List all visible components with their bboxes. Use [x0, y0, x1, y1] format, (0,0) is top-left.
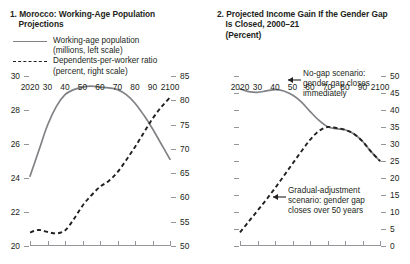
x-tick-label: 60 — [95, 82, 104, 92]
solid-line-key-icon — [13, 41, 47, 42]
left-y-tick — [234, 127, 239, 128]
left-y-tick — [234, 144, 239, 145]
left-y-tick — [24, 178, 29, 179]
right-y-tick — [381, 161, 386, 162]
no-gap-scenario-curve — [240, 89, 380, 161]
left-y-tick — [234, 76, 239, 77]
right-y-tick-label: 65 — [177, 168, 189, 178]
panel-2-title-line1: Projected Income Gain If the Gender Gap — [226, 9, 387, 19]
panel-2-units: (Percent) — [217, 30, 409, 40]
x-tick-label: 80 — [130, 82, 139, 92]
legend-label-dependents-ratio: Dependents-per-worker ratio — [53, 56, 157, 65]
x-tick — [240, 241, 241, 246]
no-gap-annotation-line2: gender gap closes — [303, 79, 370, 89]
x-tick-label: 2100 — [161, 82, 180, 92]
no-gap-annotation-line1: No-gap scenario: — [303, 69, 370, 79]
left-y-tick — [234, 246, 239, 247]
left-y-tick-label: 30 — [11, 71, 23, 81]
panel-2-title-line2: Is Closed, 2000–21 — [217, 19, 409, 29]
right-y-tick — [171, 100, 176, 101]
legend-item-dependents-ratio: Dependents-per-worker ratio — [53, 56, 157, 66]
right-y-tick — [171, 246, 176, 247]
x-tick — [118, 241, 119, 246]
x-tick-label: 2020 — [21, 82, 40, 92]
right-y-tick-label: 70 — [177, 144, 189, 154]
left-y-tick — [24, 76, 29, 77]
left-y-tick — [234, 195, 239, 196]
panel-1-legend: Working-age population (millions, left s… — [53, 36, 157, 77]
x-tick-label: 50 — [78, 82, 87, 92]
legend-item-working-age-population: Working-age population — [53, 36, 157, 46]
left-y-tick — [24, 110, 29, 111]
x-tick-label: 90 — [148, 82, 157, 92]
right-y-tick-label: 40 — [387, 105, 399, 115]
panel-2-plot-area: 2020304050607080902100051015202530354045… — [240, 76, 380, 246]
right-y-tick-label: 50 — [387, 71, 399, 81]
left-y-tick-label: 22 — [11, 207, 23, 217]
right-y-tick-label: 75 — [177, 120, 189, 130]
left-y-tick — [234, 110, 239, 111]
x-tick — [135, 241, 136, 246]
right-y-tick — [381, 93, 386, 94]
panel-1-title-line1: Morocco: Working-Age Population — [19, 9, 155, 19]
right-y-tick-label: 55 — [177, 217, 189, 227]
x-tick — [363, 241, 364, 246]
right-y-tick-label: 45 — [387, 88, 399, 98]
left-y-tick — [24, 212, 29, 213]
panel-1-title-line2: Projections — [10, 19, 200, 29]
right-y-tick-label: 60 — [177, 192, 189, 202]
x-tick — [310, 241, 311, 246]
legend-sublabel-working-age-population: (millions, left scale) — [53, 46, 157, 56]
chart-panel-1: 1. Morocco: Working-Age Population Proje… — [0, 0, 205, 264]
right-y-tick-label: 15 — [387, 190, 399, 200]
gradual-adjustment-annotation: Gradual-adjustment scenario: gender gap … — [288, 186, 365, 217]
x-tick — [293, 241, 294, 246]
left-y-tick — [234, 161, 239, 162]
right-y-tick — [171, 222, 176, 223]
right-y-tick-label: 80 — [177, 95, 189, 105]
x-tick — [275, 241, 276, 246]
left-y-tick — [234, 229, 239, 230]
right-y-tick — [381, 195, 386, 196]
panel-2-number: 2. — [217, 9, 224, 19]
legend-label-working-age-population: Working-age population — [53, 36, 139, 45]
panel-2-curves — [240, 76, 380, 246]
x-tick-label: 40 — [270, 82, 279, 92]
left-y-tick-label: 24 — [11, 173, 23, 183]
right-y-tick-label: 30 — [387, 139, 399, 149]
x-tick — [30, 241, 31, 246]
right-y-tick-label: 5 — [387, 224, 395, 234]
left-y-tick — [234, 212, 239, 213]
left-y-tick — [234, 93, 239, 94]
x-tick-label: 2020 — [231, 82, 250, 92]
right-y-tick — [381, 178, 386, 179]
right-y-tick — [381, 229, 386, 230]
panel-1-plot-area: 2020304050607080902100202224262830505560… — [30, 76, 170, 246]
right-y-tick-label: 10 — [387, 207, 399, 217]
left-y-tick — [234, 178, 239, 179]
right-y-tick — [171, 173, 176, 174]
gradual-annotation-line1: Gradual-adjustment — [288, 186, 365, 196]
x-tick — [345, 241, 346, 246]
right-y-tick — [381, 212, 386, 213]
right-y-tick-label: 35 — [387, 122, 399, 132]
x-tick-label: 30 — [253, 82, 262, 92]
left-y-tick-label: 20 — [11, 241, 23, 251]
x-tick — [83, 241, 84, 246]
left-y-tick-label: 26 — [11, 139, 23, 149]
no-gap-annotation-line3: immediately — [303, 89, 370, 99]
x-tick — [258, 241, 259, 246]
right-y-tick — [171, 197, 176, 198]
right-y-tick — [381, 110, 386, 111]
x-tick — [65, 241, 66, 246]
x-tick-label: 40 — [60, 82, 69, 92]
right-y-tick — [381, 144, 386, 145]
x-tick — [48, 241, 49, 246]
right-y-tick-label: 50 — [177, 241, 189, 251]
left-y-tick — [24, 144, 29, 145]
panel-2-title: 2. Projected Income Gain If the Gender G… — [217, 9, 409, 40]
x-tick — [328, 241, 329, 246]
right-y-tick — [171, 76, 176, 77]
working-age-population-curve — [30, 86, 170, 176]
left-y-tick — [24, 246, 29, 247]
